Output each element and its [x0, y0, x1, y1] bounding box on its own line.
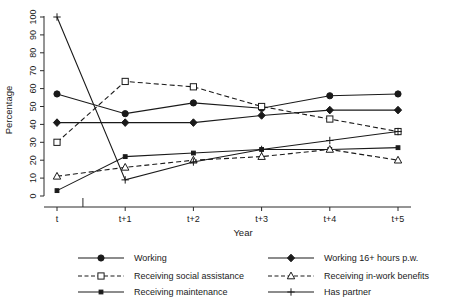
y-tick-label: 40	[28, 119, 38, 129]
y-tick-label: 30	[28, 137, 38, 147]
data-point	[55, 189, 59, 193]
legend-label: Working 16+ hours p.w.	[324, 253, 418, 263]
legend-label: Receiving in-work benefits	[324, 271, 430, 281]
x-tick-label: t+3	[255, 214, 268, 224]
data-point	[192, 151, 196, 155]
legend-marker	[98, 255, 104, 261]
y-tick-label: 100	[28, 9, 38, 24]
y-tick-label: 10	[28, 173, 38, 183]
y-tick-label: 70	[28, 66, 38, 76]
data-point	[327, 93, 333, 99]
legend-label: Working	[134, 253, 167, 263]
data-point	[395, 91, 401, 97]
data-point	[54, 139, 60, 145]
y-tick-label: 60	[28, 84, 38, 94]
data-point	[396, 146, 400, 150]
legend-label: Has partner	[324, 287, 371, 297]
data-point	[259, 103, 265, 109]
legend-marker	[99, 290, 103, 294]
y-tick-label: 20	[28, 155, 38, 165]
x-tick-label: t+5	[392, 214, 405, 224]
data-point	[122, 111, 128, 117]
y-tick-label: 0	[28, 193, 38, 198]
legend-label: Receiving maintenance	[134, 287, 228, 297]
y-tick-label: 90	[28, 30, 38, 40]
chart-figure: 0102030405060708090100 tt+1t+2t+3t+4t+5 …	[0, 0, 456, 304]
x-tick-label: t+2	[187, 214, 200, 224]
line-chart-svg: 0102030405060708090100 tt+1t+2t+3t+4t+5 …	[0, 0, 456, 304]
x-axis-title: Year	[233, 227, 252, 238]
data-point	[190, 100, 196, 106]
x-tick-label: t+1	[119, 214, 132, 224]
data-point	[54, 91, 60, 97]
y-axis-title: Percentage	[3, 86, 14, 135]
data-point	[327, 116, 333, 122]
data-point	[190, 84, 196, 90]
legend-marker	[98, 273, 104, 279]
legend-label: Receiving social assistance	[134, 271, 244, 281]
x-tick-label: t+4	[323, 214, 336, 224]
data-point	[122, 78, 128, 84]
y-tick-label: 80	[28, 48, 38, 58]
y-tick-label: 50	[28, 101, 38, 111]
legend-item-working-16-hours-p-w[interactable]: Working 16+ hours p.w.	[268, 253, 418, 263]
data-point	[123, 155, 127, 159]
